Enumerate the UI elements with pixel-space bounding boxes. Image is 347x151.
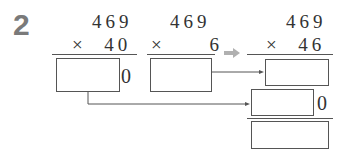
arrowhead-icon (259, 70, 264, 74)
right-arrow-icon (224, 48, 240, 58)
connector-arrows (0, 0, 347, 151)
arrowhead-icon (245, 102, 250, 106)
